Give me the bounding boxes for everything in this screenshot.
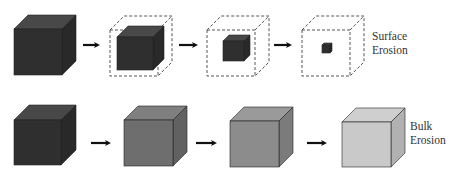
label-line: Erosion (410, 134, 446, 146)
bulk-erosion-row: BulkErosion (14, 105, 446, 167)
label-line: Erosion (372, 44, 408, 56)
surface-stage-4 (302, 16, 364, 76)
bulk-stage-1 (14, 105, 76, 165)
bulk-stage-2 (124, 106, 187, 166)
bulk-stage-4 (342, 108, 405, 167)
bulk-stage-3 (230, 107, 293, 167)
surface-stage-3 (207, 16, 269, 76)
label-line: Surface (372, 30, 407, 42)
cube-icon (14, 105, 76, 165)
cube-icon (342, 108, 405, 167)
bulk-erosion-label: BulkErosion (410, 120, 446, 146)
cube-icon (14, 15, 76, 75)
surface-erosion-row: SurfaceErosion (14, 15, 408, 76)
erosion-diagram: SurfaceErosion BulkErosion (0, 0, 456, 177)
surface-erosion-label: SurfaceErosion (372, 30, 408, 56)
cube-icon (124, 106, 187, 166)
inner-cube-icon (117, 26, 164, 70)
inner-cube-icon (322, 43, 332, 53)
surface-stage-2 (110, 16, 172, 76)
label-line: Bulk (410, 120, 433, 132)
inner-cube-icon (223, 35, 250, 61)
surface-stage-1 (14, 15, 76, 75)
cube-icon (230, 107, 293, 167)
dashed-cube-outline (302, 16, 364, 76)
